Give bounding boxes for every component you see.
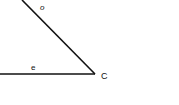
angle-diagram: o e C xyxy=(0,0,179,105)
horizontal-side-label: e xyxy=(31,63,36,72)
vertex-label: C xyxy=(101,71,108,81)
slanted-side-label: o xyxy=(40,3,45,12)
diagram-svg: o e C xyxy=(0,0,179,105)
